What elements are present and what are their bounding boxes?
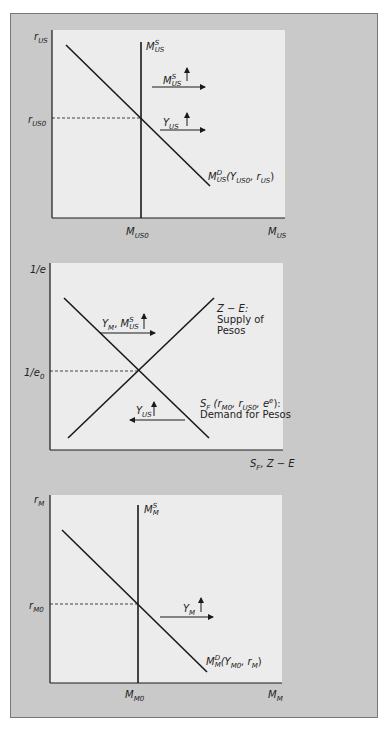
shift-label-money-supply: MSUS: [163, 74, 181, 88]
y-tick-r-us0: rUS0: [28, 114, 46, 125]
y-tick-inverse-e0: 1/e0: [24, 367, 44, 378]
money-supply-label: MSM: [144, 503, 159, 517]
y-tick-r-m0: rM0: [29, 600, 44, 611]
x-tick-m-us0: MUS0: [126, 226, 149, 237]
y-axis-label-r-m: rM: [34, 494, 44, 505]
shift-label-income-us: YUS: [163, 117, 179, 128]
shift-label-income-mx-money-supply-us: YM, MSUS: [102, 317, 139, 331]
diagram-lines: [0, 0, 390, 732]
money-demand-line: [66, 45, 210, 186]
x-axis-label-m-m: MM: [268, 689, 283, 700]
x-axis-label-m-us: MUS: [268, 226, 286, 237]
x-tick-m-m0: MM0: [125, 689, 144, 700]
y-axis-label-r-us: rUS: [34, 31, 48, 42]
money-supply-label: MSUS: [146, 40, 164, 54]
shift-label-income-mx: YM: [183, 603, 195, 614]
x-axis-label-sf-z-e: SF, Z − E: [250, 458, 295, 469]
money-demand-line: [62, 530, 207, 672]
shift-label-income-us: YUS: [136, 405, 152, 416]
panel-fx-lines: [50, 263, 283, 450]
supply-of-pesos-line: [68, 298, 214, 438]
money-demand-label: MDM(YM0, rM): [206, 655, 262, 669]
supply-of-pesos-label: Z − E: Supply of Pesos: [217, 303, 264, 336]
money-demand-label: MDUS(YUS0, rUS): [208, 170, 274, 184]
demand-for-pesos-label: SF (rM0, rUS0, ee): Demand for Pesos: [200, 398, 291, 420]
y-axis-label-inverse-e: 1/e: [30, 264, 46, 275]
